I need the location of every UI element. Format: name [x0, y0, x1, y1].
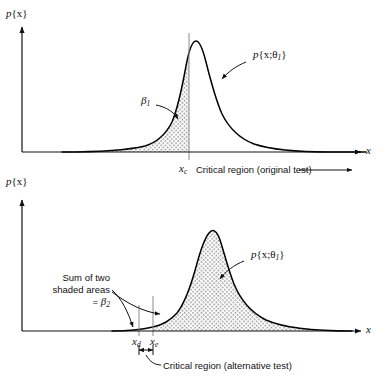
leader-curve-label-original — [222, 62, 246, 79]
curve-label-original: p{x;θ1} — [253, 49, 287, 62]
threshold-label-xc-subscript: c — [184, 167, 187, 176]
figure-svg — [0, 0, 392, 385]
beta2-annotation-line2: shaded areas — [24, 284, 110, 296]
shaded-region-beta1 — [62, 46, 189, 152]
threshold-label-xd-subscript: d — [137, 340, 141, 349]
xaxis-label-original: x — [366, 145, 371, 157]
density-curve-original — [62, 41, 366, 152]
curve-label-arg-alternative: {x;θ — [257, 248, 276, 260]
leader-caption-alternative — [146, 355, 161, 365]
yaxis-label-alternative: p{x} — [6, 176, 28, 188]
beta2-symbol: β2 — [101, 295, 110, 307]
leader-beta2-left — [112, 290, 133, 327]
beta1-subscript: 1 — [146, 99, 150, 108]
xaxis-label-alternative: x — [366, 324, 371, 336]
threshold-label-xc: xc — [179, 163, 187, 176]
threshold-label-xe: xe — [150, 336, 158, 349]
yaxis-label-original: p{x} — [6, 8, 28, 20]
curve-label-close-alternative: } — [279, 248, 284, 260]
beta2-equals: = — [93, 296, 99, 307]
caption-original-test: Critical region (original test) — [196, 164, 312, 176]
beta2-annotation: Sum of two shaded areas = β2 — [24, 272, 110, 309]
shaded-region-beta2-right — [153, 231, 352, 331]
caption-alternative-test: Critical region (alternative test) — [163, 360, 292, 372]
threshold-label-xd: xd — [132, 336, 141, 349]
curve-label-close-original: } — [281, 48, 286, 60]
yaxis-label-arg-original: {x} — [12, 7, 28, 19]
beta1-label: β1 — [141, 95, 150, 108]
figure-container: p{x} x p{x;θ1} β1 xc Critical region (or… — [0, 0, 392, 385]
yaxis-label-arg-alternative: {x} — [12, 175, 28, 187]
panel-original-test — [22, 27, 366, 170]
beta2-subscript: 2 — [106, 300, 110, 309]
threshold-label-xe-subscript: e — [155, 340, 158, 349]
curve-label-arg-original: {x;θ — [259, 48, 278, 60]
curve-label-alternative: p{x;θ1} — [251, 249, 285, 262]
beta2-annotation-line3: = β2 — [24, 296, 110, 309]
beta2-annotation-line1: Sum of two — [24, 272, 110, 284]
